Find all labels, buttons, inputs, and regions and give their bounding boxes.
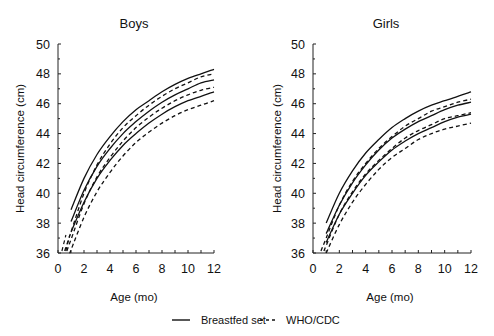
breastfed-curve bbox=[71, 69, 214, 209]
who-cdc-curve bbox=[65, 74, 214, 251]
chart-title: Girls bbox=[373, 16, 400, 31]
x-tick-label: 0 bbox=[55, 262, 62, 276]
y-axis-label: Head circumference (cm) bbox=[271, 84, 283, 213]
y-tick-label: 42 bbox=[291, 157, 305, 171]
x-tick-label: 10 bbox=[438, 262, 452, 276]
girls-chart-panel: Girls3638404244464850024681012Age (mo)He… bbox=[271, 16, 478, 303]
y-tick-label: 36 bbox=[291, 247, 305, 261]
y-axis-label: Head circumference (cm) bbox=[14, 84, 26, 213]
who-cdc-curve bbox=[321, 99, 471, 251]
x-tick-label: 6 bbox=[133, 262, 140, 276]
legend: Breastfed set WHO/CDC bbox=[172, 314, 340, 326]
x-tick-label: 0 bbox=[310, 262, 317, 276]
boys-chart-panel: Boys3638404244464850024681012Age (mo)Hea… bbox=[14, 16, 221, 303]
y-tick-label: 46 bbox=[36, 97, 50, 111]
y-tick-label: 38 bbox=[291, 217, 305, 231]
x-tick-label: 4 bbox=[362, 262, 369, 276]
y-tick-label: 46 bbox=[291, 97, 305, 111]
x-tick-label: 4 bbox=[107, 262, 114, 276]
x-tick-label: 8 bbox=[159, 262, 166, 276]
breastfed-curve bbox=[326, 92, 471, 223]
x-axis-label: Age (mo) bbox=[366, 291, 413, 303]
y-tick-label: 38 bbox=[36, 217, 50, 231]
x-tick-label: 6 bbox=[389, 262, 396, 276]
x-tick-label: 12 bbox=[207, 262, 221, 276]
y-tick-label: 40 bbox=[291, 187, 305, 201]
y-tick-label: 50 bbox=[36, 38, 50, 52]
chart-canvas: Boys3638404244464850024681012Age (mo)Hea… bbox=[0, 0, 494, 336]
y-tick-label: 44 bbox=[291, 127, 305, 141]
y-tick-label: 40 bbox=[36, 187, 50, 201]
y-tick-label: 48 bbox=[291, 67, 305, 81]
x-tick-label: 2 bbox=[81, 262, 88, 276]
x-axis-label: Age (mo) bbox=[110, 291, 157, 303]
legend-solid-label: Breastfed set bbox=[201, 314, 266, 326]
y-tick-label: 48 bbox=[36, 67, 50, 81]
y-tick-label: 42 bbox=[36, 157, 50, 171]
y-tick-label: 50 bbox=[291, 38, 305, 52]
x-tick-label: 12 bbox=[464, 262, 478, 276]
x-tick-label: 8 bbox=[415, 262, 422, 276]
x-tick-label: 2 bbox=[336, 262, 343, 276]
legend-dashed-label: WHO/CDC bbox=[286, 314, 340, 326]
x-tick-label: 10 bbox=[181, 262, 195, 276]
y-tick-label: 44 bbox=[36, 127, 50, 141]
breastfed-curve bbox=[326, 102, 471, 233]
y-tick-label: 36 bbox=[36, 247, 50, 261]
chart-title: Boys bbox=[120, 16, 149, 31]
